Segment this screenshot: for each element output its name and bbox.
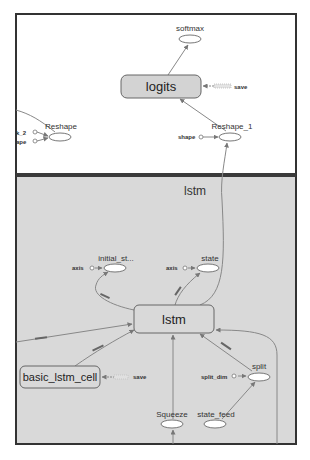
logits-save-label: save [234, 84, 248, 90]
basic-lstm-cell-label: basic_lstm_cell [23, 371, 98, 383]
node-logits[interactable]: logits [121, 75, 201, 98]
reshape-input-2-label: ape [16, 139, 27, 145]
reshape-1-label: Reshape_1 [212, 122, 253, 131]
softmax-label: softmax [176, 24, 204, 33]
node-lstm[interactable]: lstm [134, 305, 214, 333]
split-label: split [252, 362, 267, 371]
state-feed-label: state_feed [197, 410, 234, 419]
group-divider [16, 173, 296, 177]
state-axis-label: axis [166, 265, 178, 271]
lstm-label: lstm [162, 312, 186, 327]
logits-label: logits [146, 79, 177, 94]
reshape-input-1-label: k_2 [16, 130, 27, 136]
node-state-axis[interactable]: axis [166, 265, 187, 271]
state-label: state [201, 254, 219, 263]
lstm-group-title: lstm [184, 184, 206, 198]
initial-state-label: initial_st... [98, 254, 134, 263]
reshape-label: Reshape [45, 122, 78, 131]
basic-lstm-cell-save-label: save [133, 374, 147, 380]
graph-canvas[interactable]: softmax logits save Reshape k_2 ape Resh… [0, 0, 310, 460]
initial-state-axis-label: axis [72, 265, 84, 271]
reshape-1-input-label: shape [178, 134, 196, 140]
split-dim-label: split_dim [201, 374, 227, 380]
squeeze-label: Squeeze [156, 410, 188, 419]
node-basic-lstm-cell[interactable]: basic_lstm_cell [20, 366, 100, 388]
